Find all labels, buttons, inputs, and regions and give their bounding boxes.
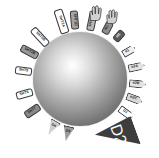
receptor-5ht7: 5HT7 <box>23 103 42 119</box>
receptor-label: 5HT7 <box>28 107 38 115</box>
receptor-1: α1 <box>121 44 137 58</box>
receptor-label: 5HT2A <box>58 16 65 28</box>
receptor-label: 5HT1D <box>73 14 78 26</box>
receptor-label: α2B <box>133 82 140 86</box>
receptor-d1: D1 <box>117 105 135 121</box>
receptor-5ht6: 5HT6 <box>16 88 34 100</box>
receptor-d2: D2 <box>93 116 141 158</box>
receptor-label: 5HT2B <box>24 48 36 57</box>
hand-activation-icon-left <box>88 5 102 21</box>
receptor-label: 5HT6 <box>20 91 30 97</box>
receptor-5ht2a: 5HT2A <box>53 9 69 36</box>
receptor-h1: H1 <box>112 29 126 43</box>
drug-molecule-sphere <box>33 32 127 126</box>
receptor-2a: α2A <box>128 61 146 72</box>
receptor-label: 5HT3B <box>35 31 46 42</box>
receptor-5ht1d: 5HT1D <box>70 10 80 30</box>
receptor-label: D3 <box>65 129 70 134</box>
receptor-label: α1 <box>125 49 131 54</box>
hand-activation-icon-right <box>105 9 118 24</box>
receptor-binding-profile-figure: 5HT2A5HT1A5HT1DM1H15HT3B5HT2B5HT55HT65HT… <box>0 0 159 158</box>
receptor-label: 5HT5 <box>19 69 29 74</box>
receptor-d3: D3 <box>60 125 74 142</box>
receptor-label: D4 <box>50 123 56 129</box>
receptor-label: D1 <box>122 109 128 115</box>
receptor-label: α2C <box>129 95 137 101</box>
receptor-5ht5: 5HT5 <box>15 66 33 76</box>
receptor-label: D2 <box>106 122 130 147</box>
receptor-label: H1 <box>116 33 122 39</box>
receptor-label: M1 <box>104 25 110 31</box>
receptor-2b: α2B <box>129 79 147 88</box>
receptor-2c: α2C <box>125 92 144 105</box>
receptor-label: α2A <box>131 65 139 70</box>
